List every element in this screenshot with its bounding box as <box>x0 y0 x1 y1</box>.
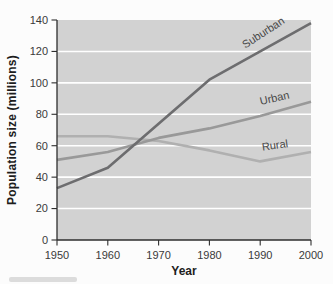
x-tick-label-1980: 1980 <box>197 249 221 261</box>
y-tick-label-80: 80 <box>36 108 48 120</box>
x-tick-label-2000: 2000 <box>299 249 323 261</box>
y-axis-title: Population size (millions) <box>5 20 21 240</box>
population-line-chart: 0204060801001201401950196019701980199020… <box>0 0 333 284</box>
y-tick-label-20: 20 <box>36 202 48 214</box>
y-tick-label-140: 140 <box>30 14 48 26</box>
x-tick-label-1960: 1960 <box>96 249 120 261</box>
cropped-caption-smudge <box>9 277 77 282</box>
y-tick-label-0: 0 <box>42 234 48 246</box>
x-axis-title: Year <box>124 264 244 280</box>
y-tick-label-100: 100 <box>30 77 48 89</box>
figure-population-chart: 0204060801001201401950196019701980199020… <box>0 0 333 284</box>
y-tick-label-40: 40 <box>36 171 48 183</box>
plot-area <box>57 20 311 240</box>
x-tick-label-1970: 1970 <box>146 249 170 261</box>
x-tick-label-1950: 1950 <box>45 249 69 261</box>
y-tick-label-60: 60 <box>36 140 48 152</box>
y-tick-label-120: 120 <box>30 45 48 57</box>
x-tick-label-1990: 1990 <box>248 249 272 261</box>
